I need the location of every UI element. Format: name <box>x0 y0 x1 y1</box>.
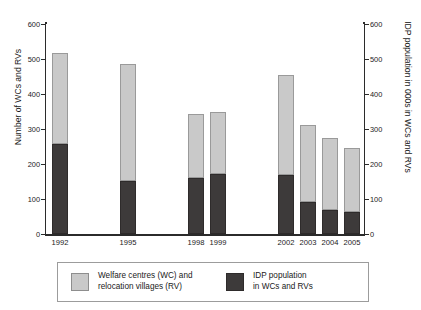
y-axis-tick-left <box>41 164 45 165</box>
y-axis-tick-left <box>41 94 45 95</box>
y-axis-tick-label: 600 <box>370 20 394 29</box>
bar-segment-welfare-centres[interactable] <box>210 112 226 174</box>
y-axis-tick-label: 300 <box>370 125 394 134</box>
x-axis-label-2005: 2005 <box>332 238 372 247</box>
bar-segment-welfare-centres[interactable] <box>52 53 68 144</box>
x-axis-label-1999: 1999 <box>198 238 238 247</box>
y-axis-left-title: Number of WCs and RVs <box>13 17 23 177</box>
y-axis-tick-left <box>41 59 45 60</box>
bar-1998[interactable] <box>188 114 204 234</box>
bar-segment-idp-population[interactable] <box>322 210 338 234</box>
y-axis-tick-right <box>365 94 369 95</box>
bar-2005[interactable] <box>344 148 360 234</box>
plot-area <box>46 24 364 234</box>
bar-2003[interactable] <box>300 125 316 234</box>
y-axis-right-title: IDP population in 000s in WCs and RVs <box>403 0 413 202</box>
bar-segment-welfare-centres[interactable] <box>120 64 136 181</box>
y-axis-tick-right <box>365 199 369 200</box>
y-axis-tick-label: 100 <box>370 195 394 204</box>
legend-item-welfare-centres: Welfare centres (WC) and relocation vill… <box>71 271 193 292</box>
bar-segment-idp-population[interactable] <box>344 212 360 234</box>
y-axis-tick-label: 200 <box>370 160 394 169</box>
bar-segment-idp-population[interactable] <box>188 178 204 234</box>
chart-figure: 00100100200200300300400400500500600600 N… <box>0 0 421 310</box>
legend-swatch-icon <box>226 273 244 291</box>
y-axis-tick-left <box>41 199 45 200</box>
y-axis-tick-right <box>365 59 369 60</box>
bar-1992[interactable] <box>52 53 68 234</box>
y-axis-tick-label: 500 <box>370 55 394 64</box>
bar-2002[interactable] <box>278 75 294 234</box>
legend-item-label: Welfare centres (WC) and relocation vill… <box>98 271 193 292</box>
legend: Welfare centres (WC) and relocation vill… <box>57 262 369 302</box>
bar-segment-welfare-centres[interactable] <box>322 138 338 210</box>
y-axis-tick-right <box>365 129 369 130</box>
bar-1995[interactable] <box>120 64 136 234</box>
bar-1999[interactable] <box>210 112 226 234</box>
bar-segment-welfare-centres[interactable] <box>278 75 294 175</box>
legend-swatch-icon <box>71 273 89 291</box>
legend-item-label: IDP population in WCs and RVs <box>253 271 313 292</box>
y-axis-tick-left <box>41 129 45 130</box>
x-axis-label-1992: 1992 <box>40 238 80 247</box>
y-axis-tick-label: 0 <box>370 230 394 239</box>
y-axis-tick-right <box>365 164 369 165</box>
bar-segment-welfare-centres[interactable] <box>344 148 360 212</box>
y-axis-tick-right <box>365 24 369 25</box>
bar-segment-idp-population[interactable] <box>210 174 226 234</box>
bar-segment-idp-population[interactable] <box>278 175 294 235</box>
y-axis-tick-label: 0 <box>16 230 40 239</box>
bar-segment-welfare-centres[interactable] <box>300 125 316 202</box>
x-axis-line <box>45 234 365 236</box>
y-axis-tick-label: 400 <box>370 90 394 99</box>
legend-item-idp-population: IDP population in WCs and RVs <box>226 271 313 292</box>
bar-segment-idp-population[interactable] <box>52 144 68 234</box>
y-axis-tick-label: 100 <box>16 195 40 204</box>
bar-segment-idp-population[interactable] <box>120 181 136 234</box>
x-axis-label-1995: 1995 <box>108 238 148 247</box>
y-axis-tick-right <box>365 234 369 235</box>
y-axis-tick-left <box>41 234 45 235</box>
bar-2004[interactable] <box>322 138 338 234</box>
y-axis-tick-left <box>41 24 45 25</box>
bar-segment-idp-population[interactable] <box>300 202 316 234</box>
bar-segment-welfare-centres[interactable] <box>188 114 204 178</box>
